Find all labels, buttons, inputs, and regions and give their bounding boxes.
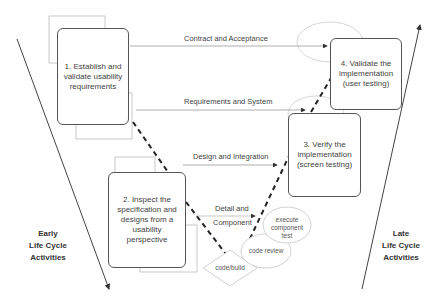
box-1-label: 1. Establish and validate usability requ… bbox=[60, 62, 126, 92]
late-line-1: Late bbox=[380, 228, 422, 240]
early-line-1: Early bbox=[28, 228, 68, 240]
early-line-3: Activities bbox=[28, 252, 68, 264]
execute-test-label: execute component test bbox=[270, 216, 304, 240]
detail-label: Detail and bbox=[215, 204, 249, 213]
early-line-2: Life Cycle bbox=[28, 240, 68, 252]
design-integration-label: Design and Integration bbox=[193, 152, 268, 161]
box-3-verify-implementation: 3. Verify the implementation (screen tes… bbox=[288, 113, 361, 197]
box-1-establish-requirements: 1. Establish and validate usability requ… bbox=[57, 28, 129, 125]
late-line-3: Activities bbox=[380, 252, 422, 264]
component-label: Component bbox=[213, 218, 252, 227]
code-build-label: code/build bbox=[206, 264, 254, 272]
box-3-label: 3. Verify the implementation (screen tes… bbox=[291, 140, 358, 170]
contract-acceptance-label: Contract and Acceptance bbox=[184, 34, 268, 43]
late-line-2: Life Cycle bbox=[380, 240, 422, 252]
box-2-inspect-specification: 2. Inspect the specification and designs… bbox=[108, 172, 186, 268]
box-4-validate-implementation: 4. Validate the implementation (user tes… bbox=[330, 38, 402, 110]
dashed-left-path bbox=[133, 122, 168, 172]
box-4-label: 4. Validate the implementation (user tes… bbox=[333, 59, 399, 89]
requirements-system-label: Requirements and System bbox=[184, 97, 272, 106]
box-2-label: 2. Inspect the specification and designs… bbox=[111, 195, 183, 245]
early-lifecycle-label: Early Life Cycle Activities bbox=[28, 228, 68, 264]
late-lifecycle-label: Late Life Cycle Activities bbox=[380, 228, 422, 264]
dashed-right-path-2 bbox=[311, 78, 331, 112]
code-review-label: code review bbox=[242, 247, 290, 255]
